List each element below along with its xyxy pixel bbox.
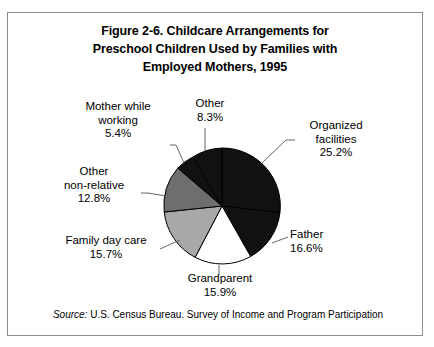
pie-label-father-value: 16.6% [290, 242, 350, 256]
pie-label-organized-facilities-line-1: Organized [294, 119, 378, 133]
pie-label-grandparent-line-1: Grandparent [175, 272, 265, 286]
pie-label-mother-while-working-value: 5.4% [70, 127, 166, 141]
pie-label-father-line-1: Father [290, 228, 350, 242]
source-note: Source: U.S. Census Bureau. Survey of In… [28, 309, 408, 321]
pie-label-father: Father 16.6% [290, 228, 350, 255]
pie-label-other-non-relative: Other non-relative 12.8% [48, 165, 140, 206]
pie-label-other-line-1: Other [182, 97, 238, 111]
pie-label-other-non-relative-line-1: Other [48, 165, 140, 179]
pie-label-mother-while-working-line-1: Mother while [70, 100, 166, 114]
pie-label-other-value: 8.3% [182, 111, 238, 125]
pie-label-other: Other 8.3% [182, 97, 238, 124]
leader-line-mother-while-working [170, 145, 184, 163]
leader-line-other-non-relative [141, 193, 166, 196]
pie-label-family-day-care: Family day care 15.7% [56, 234, 156, 261]
pie-slice-organized-facilities [222, 148, 280, 213]
pie-label-organized-facilities-line-2: facilities [294, 133, 378, 147]
pie-label-grandparent-value: 15.9% [175, 286, 265, 300]
pie-label-mother-while-working: Mother while working 5.4% [70, 100, 166, 141]
pie-slices [164, 148, 280, 264]
pie-label-organized-facilities-value: 25.2% [294, 146, 378, 160]
pie-label-other-non-relative-line-2: non-relative [48, 179, 140, 193]
leader-line-organized-facilities [262, 140, 295, 163]
pie-label-family-day-care-line-1: Family day care [56, 234, 156, 248]
source-label: Source: [53, 309, 87, 320]
leader-line-father [272, 237, 288, 243]
figure-container: Figure 2-6. Childcare Arrangements for P… [0, 0, 434, 347]
source-citation: U.S. Census Bureau. Survey of Income and… [87, 309, 383, 320]
pie-label-organized-facilities: Organized facilities 25.2% [294, 119, 378, 160]
pie-label-family-day-care-value: 15.7% [56, 248, 156, 262]
pie-label-mother-while-working-line-2: working [70, 114, 166, 128]
pie-label-grandparent: Grandparent 15.9% [175, 272, 265, 299]
pie-label-other-non-relative-value: 12.8% [48, 192, 140, 206]
leader-line-family-day-care [160, 240, 180, 249]
